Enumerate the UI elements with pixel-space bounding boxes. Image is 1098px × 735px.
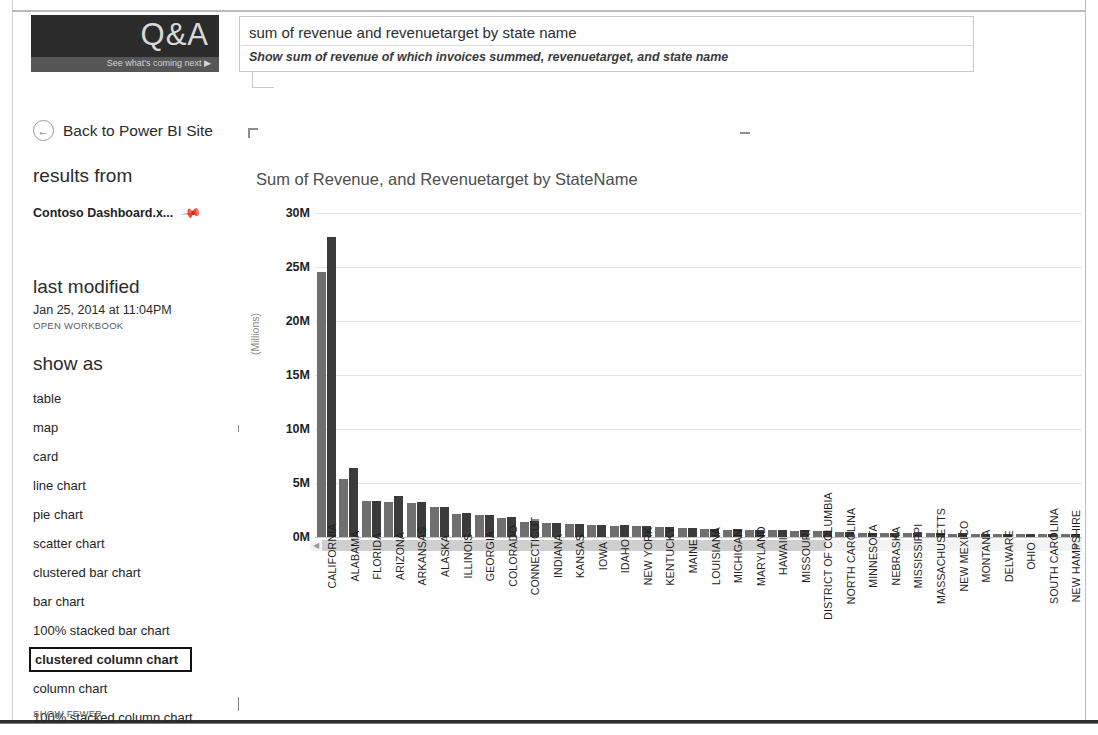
qa-logo-tagline-strip[interactable]: See what's coming next ▶ xyxy=(31,57,219,72)
bar-revenuetarget[interactable] xyxy=(597,525,606,537)
bar-group[interactable] xyxy=(946,213,969,537)
show-fewer-link[interactable]: SHOW FEWER xyxy=(33,708,103,719)
bar-revenue[interactable] xyxy=(655,527,664,537)
bar-group[interactable] xyxy=(743,213,766,537)
bar-revenuetarget[interactable] xyxy=(440,507,449,537)
show-as-item-table[interactable]: table xyxy=(33,384,223,413)
bar-group[interactable] xyxy=(518,213,541,537)
x-axis-label-cell: DELWARE xyxy=(991,556,1014,696)
show-as-item-clustered-bar-chart[interactable]: clustered bar chart xyxy=(33,558,223,587)
bar-group[interactable] xyxy=(315,213,338,537)
bar-revenue[interactable] xyxy=(407,503,416,537)
bar-group[interactable] xyxy=(383,213,406,537)
bar-revenue[interactable] xyxy=(542,523,551,537)
bar-group[interactable] xyxy=(766,213,789,537)
show-as-item-line-chart[interactable]: line chart xyxy=(33,471,223,500)
bar-group[interactable] xyxy=(495,213,518,537)
last-modified-value: Jan 25, 2014 at 11:04PM xyxy=(33,303,172,317)
bar-group[interactable] xyxy=(788,213,811,537)
bar-group[interactable] xyxy=(698,213,721,537)
bar-group[interactable] xyxy=(1014,213,1037,537)
bar-revenue[interactable] xyxy=(768,530,777,537)
bar-group[interactable] xyxy=(969,213,992,537)
bar-revenue[interactable] xyxy=(610,526,619,537)
bar-group[interactable] xyxy=(563,213,586,537)
bar-revenue[interactable] xyxy=(678,528,687,537)
bar-group[interactable] xyxy=(721,213,744,537)
bar-revenue[interactable] xyxy=(700,529,709,537)
bar-revenue[interactable] xyxy=(587,525,596,537)
y-tick-label: 10M xyxy=(286,422,310,436)
bar-group[interactable] xyxy=(608,213,631,537)
bar-revenue[interactable] xyxy=(362,501,371,537)
show-as-item-card[interactable]: card xyxy=(33,442,223,471)
x-tick-label: FLORIDA xyxy=(371,533,383,580)
bar-group[interactable] xyxy=(991,213,1014,537)
bar-revenue[interactable] xyxy=(475,515,484,537)
bar-group[interactable] xyxy=(676,213,699,537)
x-axis-label-cell: ALABAMA xyxy=(338,556,361,696)
show-as-item-column-chart[interactable]: column chart xyxy=(33,674,223,703)
bar-group[interactable] xyxy=(856,213,879,537)
bar-group[interactable] xyxy=(405,213,428,537)
bar-group[interactable] xyxy=(653,213,676,537)
x-tick-label: MISSISSIPPI xyxy=(912,524,924,589)
bar-group[interactable] xyxy=(1059,213,1082,537)
show-as-item-label: 100% stacked bar chart xyxy=(33,623,170,638)
bar-group[interactable] xyxy=(586,213,609,537)
show-as-item-bar-chart[interactable]: bar chart xyxy=(33,587,223,616)
bar-group[interactable] xyxy=(428,213,451,537)
bar-revenue[interactable] xyxy=(339,479,348,537)
bar-group[interactable] xyxy=(834,213,857,537)
bar-revenuetarget[interactable] xyxy=(349,468,358,537)
open-workbook-link[interactable]: OPEN WORKBOOK xyxy=(33,320,123,331)
bar-group[interactable] xyxy=(631,213,654,537)
bar-revenue[interactable] xyxy=(520,522,529,537)
visual-resize-handle-topleft[interactable] xyxy=(248,128,258,138)
chart-bars[interactable] xyxy=(315,213,1082,537)
bar-revenue[interactable] xyxy=(723,530,732,537)
bar-revenue[interactable] xyxy=(384,502,393,537)
bar-group[interactable] xyxy=(450,213,473,537)
back-to-power-bi-site-link[interactable]: ← Back to Power BI Site xyxy=(33,120,213,141)
pin-icon[interactable]: 📌 xyxy=(180,202,202,223)
bar-group[interactable] xyxy=(540,213,563,537)
x-tick-label: ARIZONA xyxy=(394,532,406,580)
bar-group[interactable] xyxy=(473,213,496,537)
bar-group[interactable] xyxy=(901,213,924,537)
show-as-item-clustered-column-chart[interactable]: clustered column chart xyxy=(29,647,192,672)
bar-revenue[interactable] xyxy=(745,530,754,537)
question-box[interactable]: sum of revenue and revenuetarget by stat… xyxy=(239,16,974,72)
x-tick-label: NEBRASKA xyxy=(890,527,902,586)
bar-group[interactable] xyxy=(1037,213,1060,537)
qa-logo[interactable]: Q&A See what's coming next ▶ xyxy=(31,15,219,72)
scroll-left-arrow-icon[interactable]: ◀ xyxy=(310,540,321,551)
bar-group[interactable] xyxy=(879,213,902,537)
bar-group[interactable] xyxy=(924,213,947,537)
show-as-item-label: map xyxy=(33,420,58,435)
visual-resize-handle-topright[interactable] xyxy=(740,132,750,134)
show-as-item-label: column chart xyxy=(33,681,107,696)
show-as-item-pie-chart[interactable]: pie chart xyxy=(33,500,223,529)
bar-revenue[interactable] xyxy=(565,524,574,537)
show-as-item-100-stacked-bar-chart[interactable]: 100% stacked bar chart xyxy=(33,616,223,645)
question-input-value[interactable]: sum of revenue and revenuetarget by stat… xyxy=(249,24,577,41)
bar-revenue[interactable] xyxy=(497,518,506,537)
bar-revenue[interactable] xyxy=(430,507,439,537)
bar-revenuetarget[interactable] xyxy=(620,525,629,537)
bar-group[interactable] xyxy=(811,213,834,537)
show-as-item-label: clustered bar chart xyxy=(33,565,141,580)
bar-revenuetarget[interactable] xyxy=(688,528,697,537)
bar-revenue[interactable] xyxy=(452,514,461,537)
bar-revenuetarget[interactable] xyxy=(394,496,403,537)
bar-revenuetarget[interactable] xyxy=(778,530,787,537)
bar-revenuetarget[interactable] xyxy=(327,237,336,537)
workbook-row[interactable]: Contoso Dashboard.x... 📌 xyxy=(33,205,223,220)
show-as-item-scatter-chart[interactable]: scatter chart xyxy=(33,529,223,558)
bar-group[interactable] xyxy=(360,213,383,537)
bar-revenue[interactable] xyxy=(632,526,641,537)
y-tick-label: 0M xyxy=(293,530,310,544)
show-as-item-map[interactable]: map xyxy=(33,413,223,442)
bar-revenue[interactable] xyxy=(317,272,326,537)
bar-group[interactable] xyxy=(338,213,361,537)
